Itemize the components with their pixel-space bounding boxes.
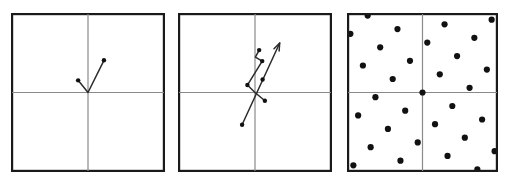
lattice-dot xyxy=(350,162,356,168)
data-point xyxy=(263,99,267,103)
lattice-dot xyxy=(368,144,374,150)
lattice-dot xyxy=(407,58,413,64)
data-point xyxy=(102,58,106,62)
data-point xyxy=(240,122,244,126)
lattice-dot xyxy=(441,21,447,27)
lattice-dot xyxy=(471,35,477,41)
lattice-dot xyxy=(484,66,490,72)
lattice-dot xyxy=(432,121,438,127)
lattice-dot xyxy=(444,153,450,159)
lattice-dot xyxy=(462,135,468,141)
lattice-dot xyxy=(489,17,495,23)
data-point xyxy=(260,77,264,81)
panel-2 xyxy=(178,13,332,172)
panel-3-canvas xyxy=(347,13,498,172)
lattice-dot xyxy=(437,71,443,77)
lattice-dot xyxy=(355,112,361,118)
lattice-dot xyxy=(454,53,460,59)
lattice-dot xyxy=(385,126,391,132)
lattice-dot xyxy=(394,26,400,32)
data-point xyxy=(260,59,264,63)
lattice-dot xyxy=(377,44,383,50)
panel-1-canvas xyxy=(11,13,165,172)
panel-1 xyxy=(11,13,165,172)
lattice-dot xyxy=(419,89,425,95)
lattice-dot xyxy=(415,139,421,145)
data-point xyxy=(76,78,80,82)
lattice-dot xyxy=(424,39,430,45)
lattice-dot xyxy=(479,116,485,122)
panel-2-canvas xyxy=(178,13,332,172)
lattice-dot xyxy=(372,94,378,100)
lattice-dot xyxy=(390,76,396,82)
lattice-dot xyxy=(397,158,403,164)
data-point xyxy=(257,48,261,52)
data-point xyxy=(245,83,249,87)
lattice-dot xyxy=(360,62,366,68)
figure-container xyxy=(0,0,507,182)
lattice-dot xyxy=(402,108,408,114)
lattice-dot xyxy=(466,85,472,91)
lattice-dot xyxy=(449,103,455,109)
panel-3 xyxy=(347,13,498,172)
